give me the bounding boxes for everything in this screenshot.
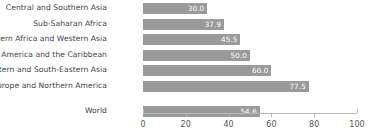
- x-axis-tick: [357, 109, 358, 113]
- x-axis-tick: [186, 113, 187, 117]
- bar-value-label: 54.6: [143, 106, 260, 117]
- bar-track: 45.5: [143, 34, 357, 45]
- x-axis-tick-label: 0: [123, 120, 163, 130]
- bar-row: Sub-Saharan Africa37.9: [0, 19, 375, 30]
- x-axis-tick: [229, 113, 230, 117]
- bar-row: Latin America and the Caribbean50.0: [0, 50, 375, 61]
- bar-row: Central and Southern Asia30.0: [0, 3, 375, 14]
- x-axis-tick: [314, 113, 315, 117]
- bar-row: Northern Africa and Western Asia45.5: [0, 34, 375, 45]
- category-label: Central and Southern Asia: [0, 2, 107, 13]
- bar-value-label: 45.5: [143, 34, 240, 45]
- category-label: Latin America and the Caribbean: [0, 49, 107, 60]
- x-axis-tick: [271, 113, 272, 117]
- x-axis-line: [143, 113, 357, 114]
- x-axis-tick-label: 100: [337, 120, 375, 130]
- horizontal-bar-chart: Central and Southern Asia30.0Sub-Saharan…: [0, 0, 375, 140]
- category-label: Europe and Northern America: [0, 80, 107, 91]
- bar-track: 60.0: [143, 65, 357, 76]
- category-label: Eastern and South-Eastern Asia: [0, 64, 107, 75]
- x-axis-tick-label: 80: [294, 120, 334, 130]
- category-label: Sub-Saharan Africa: [0, 18, 107, 29]
- bar-value-label: 50.0: [143, 50, 250, 61]
- x-axis-tick-label: 60: [251, 120, 291, 130]
- bar-track: 37.9: [143, 19, 357, 30]
- x-axis-tick-label: 20: [166, 120, 206, 130]
- bar-value-label: 77.5: [143, 81, 309, 92]
- bar-row: World54.6: [0, 106, 375, 117]
- bar-track: 30.0: [143, 3, 357, 14]
- bar-track: 77.5: [143, 81, 357, 92]
- category-label: Northern Africa and Western Asia: [0, 33, 107, 44]
- bar-value-label: 30.0: [143, 3, 207, 14]
- x-axis-tick-label: 40: [209, 120, 249, 130]
- bar-value-label: 37.9: [143, 19, 224, 30]
- x-axis-tick: [143, 109, 144, 113]
- bar-row: Eastern and South-Eastern Asia60.0: [0, 65, 375, 76]
- bar-track: 50.0: [143, 50, 357, 61]
- bar-row: Europe and Northern America77.5: [0, 81, 375, 92]
- bar-track: 54.6: [143, 106, 357, 117]
- category-label: World: [0, 105, 107, 116]
- bar-value-label: 60.0: [143, 65, 271, 76]
